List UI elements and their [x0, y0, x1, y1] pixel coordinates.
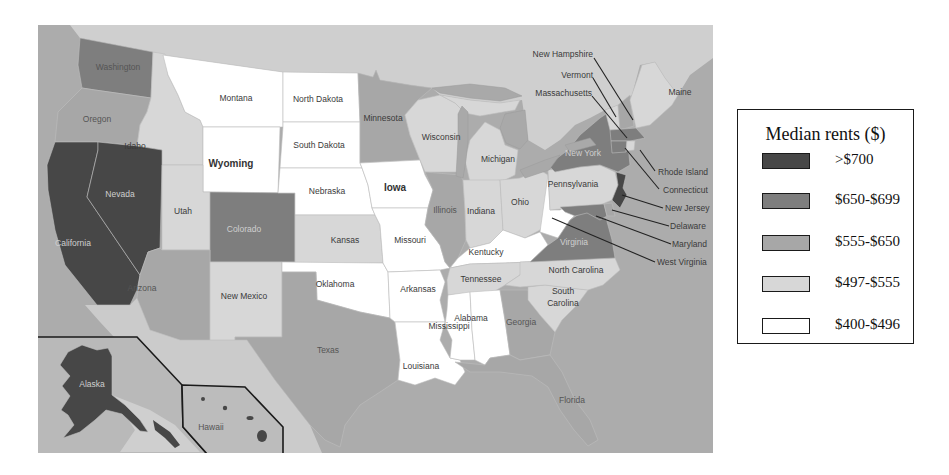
label-rhode-island: Rhode Island [658, 167, 708, 177]
label-texas: Texas [317, 345, 339, 355]
legend-label: $555-$650 [835, 233, 900, 250]
label-arizona: Arizona [128, 283, 157, 293]
label-indiana: Indiana [467, 206, 495, 216]
label-nevada: Nevada [105, 189, 135, 199]
label-connecticut: Connecticut [663, 185, 709, 195]
label-delaware: Delaware [670, 221, 706, 231]
label-new-york: New York [565, 148, 602, 158]
label-tennessee: Tennessee [460, 274, 501, 284]
label-maryland: Maryland [672, 239, 707, 249]
label-wisconsin: Wisconsin [422, 132, 461, 142]
label-wyoming: Wyoming [209, 158, 254, 169]
legend-item-400-496: $400-$496 [762, 318, 912, 335]
legend-label: $650-$699 [835, 191, 900, 208]
legend-item-497-555: $497-$555 [762, 276, 912, 293]
label-california: California [55, 238, 91, 248]
state-new-mexico [210, 262, 282, 340]
label-colorado: Colorado [227, 224, 262, 234]
label-new-mexico: New Mexico [221, 291, 268, 301]
label-florida: Florida [559, 395, 585, 405]
legend-item-650-699: $650-$699 [762, 193, 912, 210]
label-ohio: Ohio [511, 197, 529, 207]
label-kansas: Kansas [331, 235, 359, 245]
state-rhode-island [626, 141, 635, 151]
legend-item-over-700: >$700 [762, 153, 912, 170]
legend-swatch [762, 153, 810, 169]
label-south-carolina-line2: Carolina [547, 298, 579, 308]
legend: Median rents ($) >$700 $650-$699 $555-$6… [737, 109, 914, 344]
legend-label: >$700 [835, 151, 873, 168]
label-south-dakota: South Dakota [293, 140, 345, 150]
label-new-jersey: New Jersey [665, 203, 710, 213]
label-georgia: Georgia [506, 317, 537, 327]
label-nebraska: Nebraska [309, 186, 346, 196]
label-alaska: Alaska [79, 379, 105, 389]
legend-swatch [762, 318, 810, 334]
label-north-carolina: North Carolina [549, 265, 604, 275]
label-vermont: Vermont [561, 70, 593, 80]
legend-label: $497-$555 [835, 274, 900, 291]
label-hawaii: Hawaii [198, 422, 224, 432]
label-minnesota: Minnesota [363, 113, 402, 123]
state-connecticut [611, 141, 627, 153]
label-pennsylvania: Pennsylvania [548, 179, 599, 189]
label-louisiana: Louisiana [403, 361, 440, 371]
label-washington: Washington [96, 62, 141, 72]
label-oklahoma: Oklahoma [316, 279, 355, 289]
figure: Washington Oregon Idaho Nevada Californi… [0, 0, 949, 475]
legend-swatch [762, 235, 810, 251]
label-montana: Montana [219, 93, 252, 103]
label-south-carolina-line1: South [552, 286, 574, 296]
label-virginia: Virginia [560, 237, 588, 247]
label-new-hampshire: New Hampshire [533, 49, 594, 59]
label-maine: Maine [668, 87, 691, 97]
legend-label: $400-$496 [835, 316, 900, 333]
label-iowa: Iowa [384, 182, 407, 193]
label-idaho: Idaho [124, 141, 146, 151]
label-michigan: Michigan [481, 154, 515, 164]
label-massachusetts: Massachusetts [535, 88, 592, 98]
label-utah: Utah [174, 206, 192, 216]
label-illinois: Illinois [433, 205, 457, 215]
legend-swatch [762, 193, 810, 209]
label-arkansas: Arkansas [400, 284, 435, 294]
legend-item-555-650: $555-$650 [762, 235, 912, 252]
label-alabama: Alabama [454, 313, 488, 323]
label-oregon: Oregon [83, 114, 112, 124]
label-kentucky: Kentucky [469, 247, 505, 257]
label-north-dakota: North Dakota [293, 94, 343, 104]
label-missouri: Missouri [394, 235, 426, 245]
legend-swatch [762, 276, 810, 292]
state-arkansas [388, 270, 445, 322]
label-west-virginia: West Virginia [657, 257, 707, 267]
legend-title: Median rents ($) [738, 124, 913, 145]
